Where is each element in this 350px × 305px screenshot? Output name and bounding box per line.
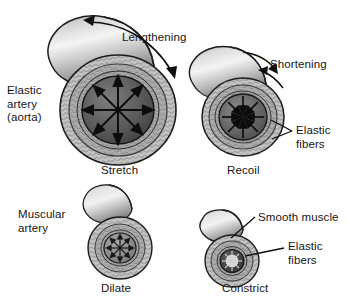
label-elastic-artery-line3: (aorta) xyxy=(7,111,42,125)
label-elastic-fibers-right-line2: fibers xyxy=(296,138,331,152)
label-muscular-artery-line1: Muscular xyxy=(18,208,65,222)
caption-stretch: Stretch xyxy=(101,164,138,178)
label-muscular-artery-line2: artery xyxy=(18,222,65,236)
label-elastic-fibers-bottom-line1: Elastic xyxy=(288,240,323,254)
stretch-arrows-outward xyxy=(83,76,153,144)
label-elastic-artery: Elastic artery (aorta) xyxy=(7,84,42,125)
label-elastic-fibers-bottom-line2: fibers xyxy=(288,254,323,268)
label-elastic-fibers-bottom: Elastic fibers xyxy=(288,240,323,267)
label-lengthening: Lengthening xyxy=(122,31,186,45)
vessel-muscular-artery-dilate xyxy=(83,185,152,279)
caption-dilate: Dilate xyxy=(101,282,131,296)
label-muscular-artery: Muscular artery xyxy=(18,208,65,235)
label-elastic-artery-line2: artery xyxy=(7,98,42,112)
label-elastic-fibers-right: Elastic fibers xyxy=(296,124,331,151)
caption-recoil: Recoil xyxy=(227,164,260,178)
constrict-arrows-inward xyxy=(222,251,242,271)
label-elastic-artery-line1: Elastic xyxy=(7,84,42,98)
label-shortening: Shortening xyxy=(270,58,327,72)
recoil-arrows-inward xyxy=(222,96,264,138)
dilate-arrows-outward xyxy=(107,235,134,262)
label-smooth-muscle: Smooth muscle xyxy=(258,211,339,225)
caption-constrict: Constrict xyxy=(222,282,268,296)
label-elastic-fibers-right-line1: Elastic xyxy=(296,124,331,138)
